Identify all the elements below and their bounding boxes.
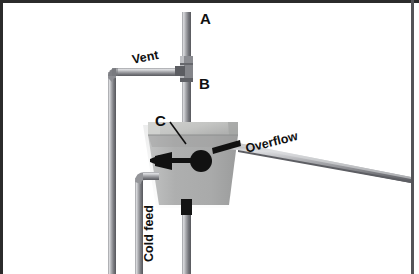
diagram-frame: A B C Vent Overflow Cold feed bbox=[0, 0, 419, 274]
vent-down-pipe bbox=[108, 70, 116, 274]
callout-label-b: B bbox=[199, 75, 210, 92]
label-cold-feed: Cold feed bbox=[142, 205, 156, 262]
diagram-canvas bbox=[0, 0, 419, 274]
callout-label-a: A bbox=[200, 10, 211, 27]
tee-junction-fitting bbox=[175, 62, 193, 82]
tank-outlet-connector bbox=[181, 199, 192, 215]
callout-label-c: C bbox=[155, 112, 166, 129]
riser-collar bbox=[180, 56, 193, 63]
